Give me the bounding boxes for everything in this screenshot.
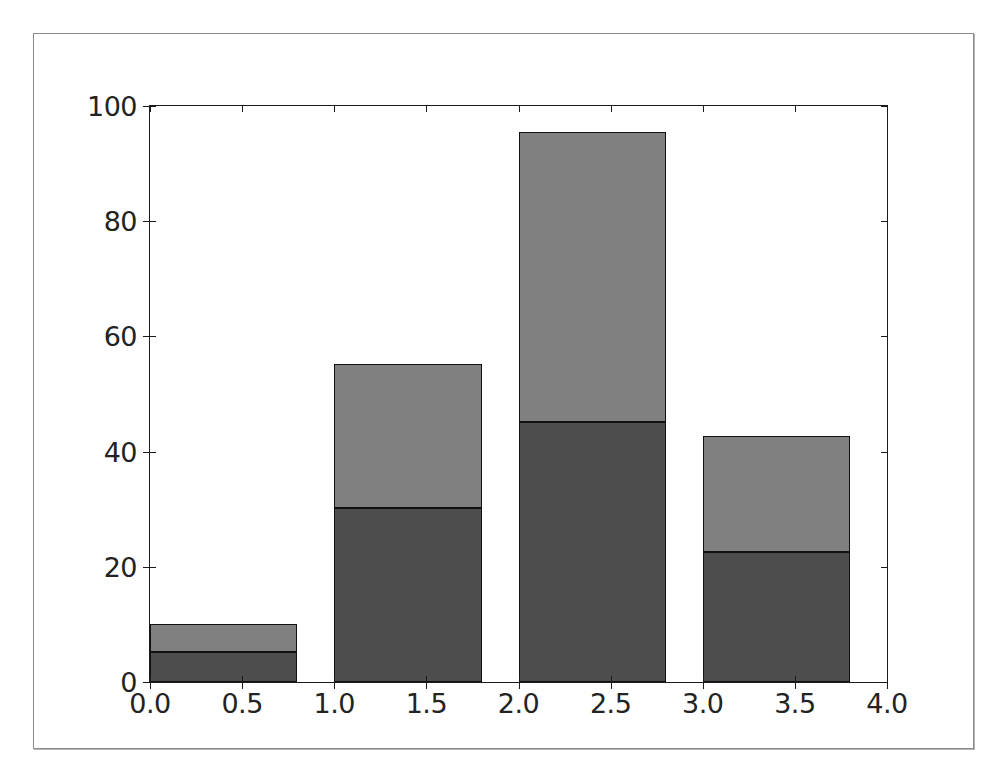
y-tick-label: 80: [104, 206, 137, 237]
x-tick-mark-top: [611, 106, 612, 112]
bar-segment-upper[interactable]: [519, 132, 666, 422]
x-tick-mark-inner: [795, 676, 796, 682]
y-tick-mark: [143, 336, 150, 337]
x-tick-mark-inner: [426, 676, 427, 682]
y-tick-mark-inner: [150, 221, 156, 222]
x-tick-mark-inner: [519, 676, 520, 682]
y-tick-label: 60: [104, 321, 137, 352]
x-tick-label: 3.5: [774, 688, 815, 719]
y-tick-mark-right: [881, 452, 887, 453]
x-tick-label: 0.0: [129, 688, 170, 719]
y-tick-label: 20: [104, 551, 137, 582]
x-tick-mark-inner: [611, 676, 612, 682]
figure-frame: 020406080100 0.00.51.01.52.02.53.03.54.0: [33, 33, 974, 749]
bar-segment-lower[interactable]: [334, 508, 481, 682]
bar-segment-lower[interactable]: [703, 552, 850, 682]
y-tick-label: 40: [104, 436, 137, 467]
x-tick-mark-top: [150, 106, 151, 112]
bar-segment-upper[interactable]: [703, 436, 850, 552]
x-tick-label: 0.5: [221, 688, 262, 719]
y-tick-mark: [143, 106, 150, 107]
plot-axes-area: 020406080100 0.00.51.01.52.02.53.03.54.0: [149, 105, 888, 683]
x-tick-mark-top: [519, 106, 520, 112]
x-tick-mark-top: [795, 106, 796, 112]
y-tick-mark: [143, 682, 150, 683]
x-tick-label: 1.0: [314, 688, 355, 719]
y-tick-label: 100: [87, 91, 137, 122]
bar-segment-lower[interactable]: [519, 422, 666, 682]
y-tick-mark-inner: [150, 567, 156, 568]
x-tick-mark-top: [334, 106, 335, 112]
y-tick-mark-right: [881, 336, 887, 337]
x-tick-mark-top: [242, 106, 243, 112]
y-tick-mark: [143, 221, 150, 222]
bar-group[interactable]: [703, 436, 850, 682]
x-tick-mark-inner: [887, 676, 888, 682]
x-tick-mark-top: [887, 106, 888, 112]
bar-group[interactable]: [519, 132, 666, 682]
y-tick-mark-right: [881, 567, 887, 568]
bar-group[interactable]: [150, 624, 297, 682]
x-tick-label: 3.0: [682, 688, 723, 719]
x-tick-label: 1.5: [406, 688, 447, 719]
bar-segment-lower[interactable]: [150, 652, 297, 682]
bars-layer: [150, 106, 887, 682]
bar-group[interactable]: [334, 364, 481, 682]
x-tick-mark-inner: [242, 676, 243, 682]
y-tick-mark-inner: [150, 336, 156, 337]
x-tick-mark-inner: [334, 676, 335, 682]
x-tick-mark-inner: [150, 676, 151, 682]
y-tick-mark-inner: [150, 452, 156, 453]
bar-segment-upper[interactable]: [150, 624, 297, 652]
x-tick-label: 2.5: [590, 688, 631, 719]
bar-segment-upper[interactable]: [334, 364, 481, 508]
x-tick-mark-top: [426, 106, 427, 112]
x-tick-mark-top: [703, 106, 704, 112]
y-tick-mark-right: [881, 221, 887, 222]
y-tick-mark: [143, 567, 150, 568]
x-tick-mark-inner: [703, 676, 704, 682]
x-tick-label: 4.0: [866, 688, 907, 719]
x-tick-label: 2.0: [498, 688, 539, 719]
y-tick-mark: [143, 452, 150, 453]
